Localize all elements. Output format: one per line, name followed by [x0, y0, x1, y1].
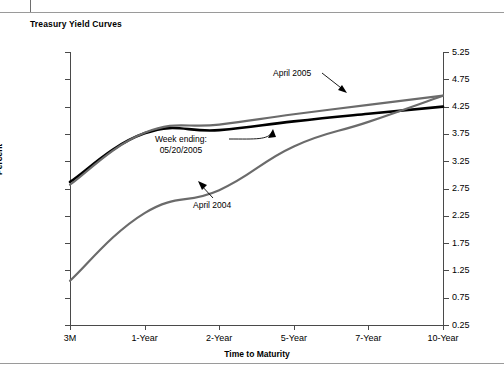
leader-week-ending	[229, 132, 272, 139]
series-line	[70, 96, 443, 281]
annotation-week-ending-line2: 05/20/2005	[155, 145, 207, 156]
annotation-week-ending: Week ending: 05/20/2005	[155, 134, 207, 156]
series-lines	[70, 96, 443, 281]
annotation-april-2005: April 2005	[273, 68, 311, 79]
annotation-april-2004: April 2004	[193, 200, 231, 211]
series-line	[70, 107, 443, 182]
series-line	[70, 96, 443, 185]
chart-page: Treasury Yield Curves 0.250.250.750.751.…	[0, 0, 504, 377]
annotation-week-ending-line1: Week ending:	[155, 134, 207, 145]
arrowhead-week-ending	[268, 129, 276, 138]
arrowhead-april2004	[198, 181, 207, 190]
chart-canvas	[0, 0, 504, 377]
